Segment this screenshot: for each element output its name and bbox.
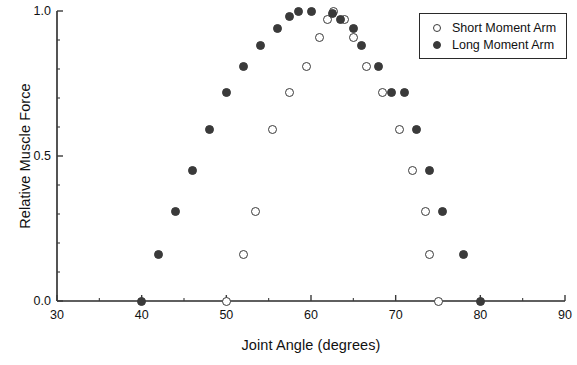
legend-item-long-moment-arm: Long Moment Arm: [428, 36, 556, 53]
data-point: [188, 166, 197, 175]
x-tick-label: 30: [37, 309, 77, 321]
data-point: [387, 88, 396, 97]
x-tick-label: 60: [291, 309, 331, 321]
x-tick-label: 70: [376, 309, 416, 321]
legend-item-label: Short Moment Arm: [448, 21, 556, 35]
data-point: [171, 207, 180, 216]
legend-item-short-moment-arm: Short Moment Arm: [428, 19, 556, 36]
data-point: [154, 250, 163, 259]
data-point: [459, 250, 468, 259]
data-point: [268, 125, 277, 134]
data-point: [222, 88, 231, 97]
data-point: [408, 166, 417, 175]
data-point: [349, 24, 358, 33]
data-point: [302, 62, 311, 71]
data-point: [362, 62, 371, 71]
x-tick-label: 40: [122, 309, 162, 321]
data-point: [137, 297, 146, 306]
x-tick-label: 80: [460, 309, 500, 321]
data-point: [412, 125, 421, 134]
data-point: [421, 207, 430, 216]
open-circle-icon: [428, 22, 448, 34]
data-point: [476, 297, 485, 306]
filled-circle-icon: [428, 39, 448, 51]
data-point: [205, 125, 214, 134]
data-point: [239, 62, 248, 71]
data-point: [425, 166, 434, 175]
data-point: [222, 297, 231, 306]
data-point: [374, 62, 383, 71]
data-point: [294, 7, 303, 16]
y-tick-label: 0.5: [11, 150, 51, 162]
data-point: [349, 33, 358, 42]
data-point: [395, 125, 404, 134]
data-point: [357, 41, 366, 50]
data-point: [315, 33, 324, 42]
data-point: [251, 207, 260, 216]
data-point: [256, 41, 265, 50]
data-point: [438, 207, 447, 216]
data-point: [285, 12, 294, 21]
data-point: [307, 7, 316, 16]
data-point: [239, 250, 248, 259]
y-tick-label: 0.0: [11, 295, 51, 307]
y-tick-label: 1.0: [11, 5, 51, 17]
scatter-chart-figure: Relative Muscle Force Joint Angle (degre…: [0, 0, 577, 365]
data-point: [400, 88, 409, 97]
legend-item-label: Long Moment Arm: [448, 38, 554, 52]
data-point: [425, 250, 434, 259]
data-point: [273, 24, 282, 33]
x-tick-label: 50: [206, 309, 246, 321]
chart-legend: Short Moment Arm Long Moment Arm: [419, 13, 567, 59]
x-tick-label: 90: [545, 309, 577, 321]
data-point: [434, 297, 443, 306]
data-point: [285, 88, 294, 97]
